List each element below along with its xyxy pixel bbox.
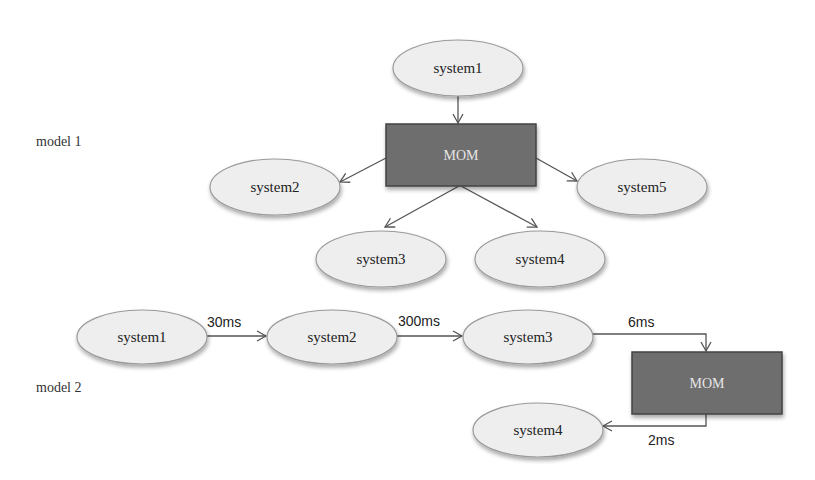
hub-label: MOM	[689, 376, 725, 391]
node-label: system1	[117, 329, 166, 345]
node-label: system3	[356, 251, 405, 267]
hub-label: MOM	[443, 148, 479, 163]
node-label: system4	[515, 251, 565, 267]
m1-node-system4[interactable]: system4	[475, 231, 605, 287]
latency-label-2: 300ms	[398, 313, 440, 329]
m2-node-system1[interactable]: system1	[77, 310, 207, 364]
m2-node-system2[interactable]: system2	[267, 310, 397, 364]
m2-node-system4[interactable]: system4	[473, 403, 603, 457]
m1-node-system5[interactable]: system5	[577, 159, 707, 215]
node-label: system5	[617, 179, 666, 195]
edge-s3-mom	[593, 334, 706, 351]
m1-node-system3[interactable]: system3	[316, 231, 446, 287]
edge-mom-system3	[385, 186, 459, 227]
edge-mom-system5	[536, 158, 577, 181]
m1-hub-mom[interactable]: MOM	[386, 124, 536, 186]
latency-label-1: 30ms	[207, 314, 241, 330]
edge-mom-s4	[603, 414, 706, 426]
m1-node-system2[interactable]: system2	[210, 159, 340, 215]
node-label: system4	[513, 422, 563, 438]
m2-hub-mom[interactable]: MOM	[632, 352, 782, 414]
node-label: system2	[307, 329, 356, 345]
m2-node-system3[interactable]: system3	[463, 310, 593, 364]
edge-mom-system4	[461, 186, 537, 227]
diagram-canvas: system1 MOM system2 system3 system4 syst…	[0, 0, 815, 480]
node-label: system3	[503, 329, 552, 345]
m1-node-system1[interactable]: system1	[393, 40, 523, 96]
edge-mom-system2	[340, 158, 386, 182]
node-label: system1	[433, 60, 482, 76]
node-label: system2	[250, 179, 299, 195]
latency-label-4: 2ms	[648, 432, 674, 448]
latency-label-3: 6ms	[628, 314, 654, 330]
